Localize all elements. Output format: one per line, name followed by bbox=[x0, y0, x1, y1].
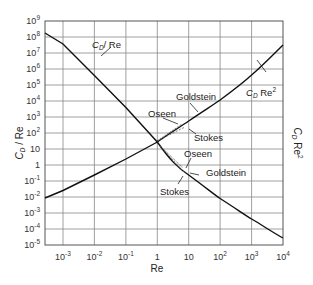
svg-text:10-5: 10-5 bbox=[24, 238, 40, 250]
cd-over-re-curve bbox=[45, 33, 283, 238]
svg-text:10-2: 10-2 bbox=[87, 250, 103, 262]
stokes-upper-label: Stokes bbox=[194, 132, 223, 143]
svg-text:1: 1 bbox=[35, 160, 40, 170]
svg-text:10-1: 10-1 bbox=[118, 250, 134, 262]
oseen-upper-line bbox=[157, 124, 182, 141]
svg-text:108: 108 bbox=[26, 30, 40, 42]
svg-text:104: 104 bbox=[276, 250, 290, 262]
svg-text:10-3: 10-3 bbox=[24, 206, 40, 218]
cd-re2-curve bbox=[45, 45, 283, 198]
drag-chart: CD/ Re CD Re2 Goldstein Oseen Stokes Ose… bbox=[0, 0, 313, 285]
svg-text:107: 107 bbox=[26, 46, 40, 58]
svg-text:103: 103 bbox=[245, 250, 259, 262]
svg-text:104: 104 bbox=[26, 94, 40, 106]
svg-text:106: 106 bbox=[26, 62, 40, 74]
svg-text:10-4: 10-4 bbox=[24, 222, 40, 234]
svg-text:10: 10 bbox=[184, 252, 194, 262]
stokes-upper-line bbox=[157, 127, 185, 141]
svg-text:102: 102 bbox=[213, 250, 227, 262]
cd-re2-label: CD Re2 bbox=[246, 86, 276, 99]
goldstein-upper-label: Goldstein bbox=[176, 91, 216, 102]
y-axis-label-right: CD Re2 bbox=[291, 127, 304, 159]
y-axis-label-left: CD / Re bbox=[14, 126, 26, 159]
grid bbox=[45, 21, 283, 245]
svg-text:109: 109 bbox=[26, 14, 40, 26]
goldstein-lower-label: Goldstein bbox=[206, 167, 246, 178]
y-tick-labels: 109 108 107 106 105 104 103 102 10 1 10-… bbox=[24, 14, 40, 250]
svg-text:1: 1 bbox=[155, 252, 160, 262]
oseen-lower-label: Oseen bbox=[184, 148, 212, 159]
svg-text:105: 105 bbox=[26, 78, 40, 90]
svg-text:10-1: 10-1 bbox=[24, 174, 40, 186]
svg-text:10: 10 bbox=[30, 144, 40, 154]
oseen-upper-label: Oseen bbox=[148, 108, 176, 119]
x-axis-label: Re bbox=[151, 263, 164, 274]
cd-over-re-label: CD/ Re bbox=[92, 39, 121, 51]
svg-text:103: 103 bbox=[26, 110, 40, 122]
stokes-lower-label: Stokes bbox=[160, 186, 189, 197]
svg-text:10-3: 10-3 bbox=[55, 250, 71, 262]
x-tick-labels: 10-3 10-2 10-1 1 10 102 103 104 bbox=[55, 250, 290, 262]
svg-text:10-2: 10-2 bbox=[24, 190, 40, 202]
svg-text:102: 102 bbox=[26, 126, 40, 138]
